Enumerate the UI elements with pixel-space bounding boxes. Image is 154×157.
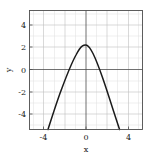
x-tick-label-1: 0 <box>83 133 88 142</box>
y-tick-label-0: -4 <box>18 110 26 119</box>
y-tick-label-1: -2 <box>18 88 26 97</box>
x-axis-title: x <box>84 145 89 154</box>
y-axis-title: y <box>4 67 13 73</box>
y-tick-label-2: 0 <box>21 66 26 75</box>
figure-container: -4 0 4 -4 -2 0 2 4 x y <box>0 0 154 157</box>
y-tick-label-3: 2 <box>21 43 26 52</box>
x-tick-label-2: 4 <box>126 133 131 142</box>
parabola-chart: -4 0 4 -4 -2 0 2 4 x y <box>0 0 154 157</box>
x-tick-label-0: -4 <box>40 133 48 142</box>
y-tick-label-4: 4 <box>21 21 26 30</box>
